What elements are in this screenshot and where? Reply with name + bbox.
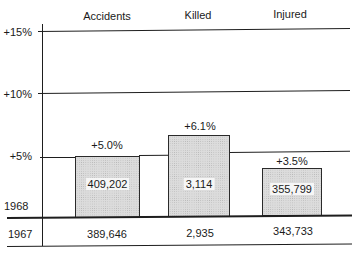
- column-header-injured: Injured: [273, 8, 307, 20]
- gridline-5-seg3: [229, 151, 350, 153]
- baseline-1968: [7, 215, 352, 219]
- gridline-5-seg1: [40, 157, 76, 158]
- bar-value-injured-1968: 355,799: [270, 183, 314, 195]
- value-accidents-1967: 389,646: [87, 228, 127, 240]
- bar-accidents: 409,202: [75, 156, 140, 218]
- pct-label-accidents: +5.0%: [91, 139, 123, 151]
- y-tick-10: +10%: [0, 88, 32, 100]
- column-header-accidents: Accidents: [83, 10, 131, 22]
- value-injured-1967: 343,733: [273, 225, 313, 237]
- value-killed-1967: 2,935: [186, 227, 214, 239]
- bottom-rule: [7, 244, 352, 248]
- row-label-1967: 1967: [8, 228, 32, 240]
- row-label-1968: 1968: [4, 200, 28, 212]
- pct-label-killed: +6.1%: [184, 120, 216, 132]
- column-header-killed: Killed: [185, 9, 212, 21]
- gridline-10: [38, 90, 350, 94]
- y-tick-5: +5%: [0, 150, 32, 162]
- pct-label-injured: +3.5%: [276, 155, 308, 167]
- gridline-5-seg2: [139, 155, 169, 157]
- y-tick-15: +15%: [0, 26, 32, 38]
- y-axis: [42, 24, 43, 246]
- gridline-15: [38, 28, 350, 32]
- bar-injured: 355,799: [262, 168, 322, 216]
- bar-value-killed-1968: 3,114: [184, 178, 215, 190]
- bar-value-accidents-1968: 409,202: [86, 178, 130, 190]
- bar-killed: 3,114: [168, 135, 230, 217]
